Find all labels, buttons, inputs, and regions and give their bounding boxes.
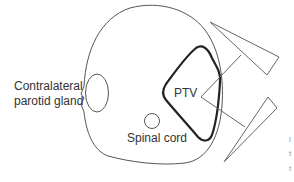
edge-fragment: l [289, 135, 291, 144]
beam-connector [201, 55, 245, 127]
beam-lower [224, 97, 277, 162]
spinal-cord-outline [145, 114, 160, 129]
ptv-label: PTV [174, 86, 197, 100]
parotid-gland-outline [86, 74, 109, 112]
edge-fragment: t [289, 164, 292, 173]
spinal-cord-label: Spinal cord [127, 131, 187, 145]
parotid-label-line2: parotid gland [14, 94, 83, 108]
radiotherapy-diagram: Contralateral parotid gland PTV Spinal c… [0, 0, 294, 182]
parotid-label-line1: Contralateral [14, 79, 83, 93]
edge-fragment: t [289, 149, 292, 158]
